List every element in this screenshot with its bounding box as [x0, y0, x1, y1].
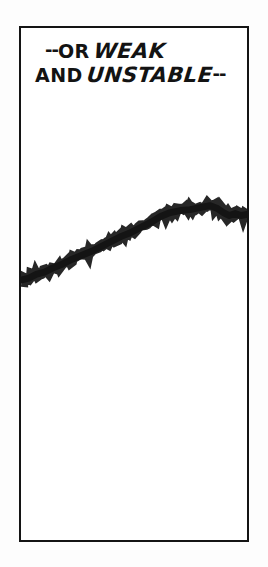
chart-trend-line-texture — [21, 203, 247, 282]
chart-line-svg — [21, 28, 247, 540]
chart-line-surface — [21, 28, 247, 540]
comic-panel-frame: --ORWEAK ANDUNSTABLE-- — [19, 26, 249, 542]
comic-panel-root: --ORWEAK ANDUNSTABLE-- — [0, 0, 268, 567]
